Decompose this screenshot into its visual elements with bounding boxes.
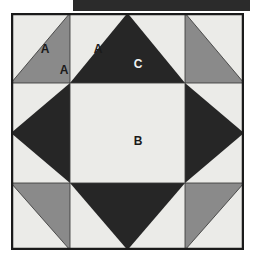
- header-bar: [73, 0, 250, 11]
- patch-label-b-center: B: [134, 134, 143, 148]
- center-square-patch: [70, 83, 185, 183]
- quilt-block-figure: A A A C B: [11, 13, 244, 250]
- page-canvas: A A A C B: [0, 0, 254, 259]
- patch-label-a-top-left-gray: A: [60, 63, 69, 77]
- patch-label-a-top-center-light: A: [94, 42, 103, 56]
- patch-label-a-top-left-light: A: [41, 42, 50, 56]
- patch-label-c-top-center-dark: C: [134, 57, 143, 71]
- quilt-block-svg: A A A C B: [11, 13, 244, 250]
